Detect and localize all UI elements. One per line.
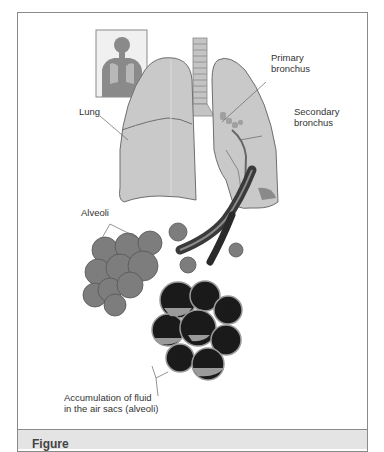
fluid-alveoli-icon [152,281,242,380]
label-primary-bronchus: Primary bronchus [271,52,310,74]
label-primary-bronchus-line1: Primary [271,52,310,63]
label-fluid-line1: Accumulation of fluid [64,392,159,403]
label-secondary-bronchus: Secondary bronchus [294,106,339,128]
label-fluid-line2: in the air sacs (alveoli) [64,403,159,414]
caption-bar: Figure [17,429,368,449]
label-lung: Lung [79,106,100,117]
label-secondary-bronchus-line2: bronchus [294,117,339,128]
figure-caption: Figure [32,437,69,451]
label-alveoli: Alveoli [81,207,109,218]
label-fluid: Accumulation of fluid in the air sacs (a… [64,392,159,414]
label-secondary-bronchus-line1: Secondary [294,106,339,117]
label-primary-bronchus-line2: bronchus [271,63,310,74]
